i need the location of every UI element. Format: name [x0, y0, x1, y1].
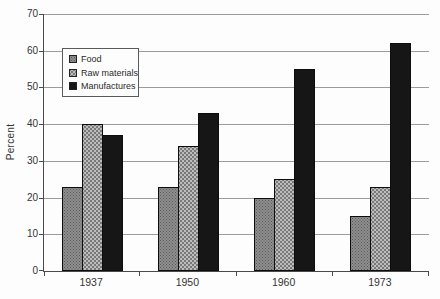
legend-item-food: Food	[69, 54, 133, 64]
legend-box: FoodRaw materialsManufactures	[62, 48, 139, 97]
legend-label-food: Food	[81, 54, 102, 64]
bar-food-1937	[62, 187, 83, 271]
bar-raw-materials-1973	[370, 187, 391, 271]
y-tick-label-50: 50	[0, 82, 38, 92]
legend-item-manufactures: Manufactures	[69, 81, 133, 91]
y-tick-label-10: 10	[0, 229, 38, 239]
bar-food-1950	[158, 187, 179, 271]
bar-manufactures-1950	[198, 113, 219, 271]
y-axis-tick-labels: 010203040506070	[0, 14, 38, 271]
bar-raw-materials-1960	[274, 179, 295, 271]
y-tick-label-20: 20	[0, 193, 38, 203]
bar-raw-materials-1937	[82, 124, 103, 271]
bar-manufactures-1937	[102, 135, 123, 271]
bar-chart-figure: Percent 010203040506070 1937195019601973…	[0, 0, 440, 299]
bar-group-1950	[140, 14, 236, 271]
bar-group-1960	[237, 14, 333, 271]
bar-manufactures-1960	[294, 69, 315, 271]
x-tick-label-1973: 1973	[332, 276, 428, 288]
y-tick-label-60: 60	[0, 46, 38, 56]
legend-item-raw-materials: Raw materials	[69, 68, 133, 78]
bar-group-1973	[333, 14, 429, 271]
y-tick-label-30: 30	[0, 156, 38, 166]
y-tick-label-0: 0	[0, 266, 38, 276]
x-tick-label-1937: 1937	[43, 276, 139, 288]
x-tick-4	[428, 272, 429, 276]
x-tick-label-1960: 1960	[236, 276, 332, 288]
bar-raw-materials-1950	[178, 146, 199, 271]
bar-food-1960	[254, 198, 275, 271]
x-tick-label-1950: 1950	[139, 276, 235, 288]
x-axis-tick-labels: 1937195019601973	[43, 276, 428, 288]
y-tick-label-40: 40	[0, 119, 38, 129]
bar-food-1973	[350, 216, 371, 271]
legend-swatch-manufactures	[69, 82, 77, 90]
legend-label-manufactures: Manufactures	[81, 81, 136, 91]
legend-swatch-raw-materials	[69, 69, 77, 77]
legend-swatch-food	[69, 55, 77, 63]
legend-label-raw-materials: Raw materials	[81, 68, 138, 78]
y-tick-label-70: 70	[0, 9, 38, 19]
bar-manufactures-1973	[390, 43, 411, 271]
